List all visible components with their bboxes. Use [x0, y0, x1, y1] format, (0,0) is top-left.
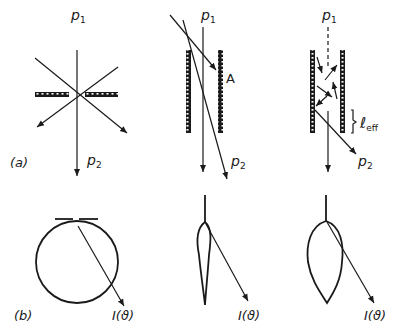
- scattering-diagram: p1 p2 (a) p1 A p2 p1 ℓeff p2: [0, 0, 398, 330]
- isotropic-intensity-plot: (b) I(ϑ): [14, 219, 134, 323]
- thin-foil-diagram: p1 p2 (a): [10, 7, 127, 176]
- intensity-label: I(ϑ): [238, 308, 260, 323]
- exit-ray-p2: [315, 110, 356, 154]
- intensity-circle: [36, 221, 118, 303]
- intensity-arrow: [206, 224, 248, 301]
- scatter-arrow: [317, 86, 332, 97]
- scatter-arrow: [333, 82, 337, 99]
- p1-label: p1: [70, 7, 86, 25]
- foil-left: [35, 92, 69, 97]
- p1-label: p1: [321, 7, 337, 25]
- panel-b-label: (b): [14, 308, 32, 323]
- intensity-label: I(ϑ): [112, 308, 134, 323]
- channel-wall-right: [340, 50, 345, 133]
- l-eff-label: ℓeff: [359, 114, 379, 133]
- scatter-arrow: [317, 57, 322, 73]
- wide-lobe: [308, 221, 343, 303]
- intensity-label: I(ϑ): [364, 308, 386, 323]
- p2-label: p2: [357, 153, 373, 171]
- channel-multiple-scattering-diagram: p1 ℓeff p2: [310, 7, 379, 172]
- narrow-lobe-intensity-plot: I(ϑ): [197, 195, 260, 323]
- panel-a-label: (a): [10, 155, 28, 170]
- p1-label: p1: [200, 7, 216, 25]
- point-a-label: A: [226, 71, 235, 86]
- narrow-lobe: [197, 222, 210, 305]
- channel-wall-left: [186, 50, 191, 133]
- channel-wall-left: [310, 50, 315, 133]
- channel-wall-right: [218, 50, 223, 133]
- scatter-arrow: [316, 96, 327, 106]
- length-bracket: [351, 110, 356, 133]
- foil-right: [85, 92, 118, 97]
- p2-label: p2: [86, 152, 102, 170]
- p2-label: p2: [230, 153, 246, 171]
- scatter-arrow: [325, 65, 337, 80]
- channel-direct-diagram: p1 A p2: [170, 7, 246, 179]
- wide-lobe-intensity-plot: I(ϑ): [308, 195, 387, 323]
